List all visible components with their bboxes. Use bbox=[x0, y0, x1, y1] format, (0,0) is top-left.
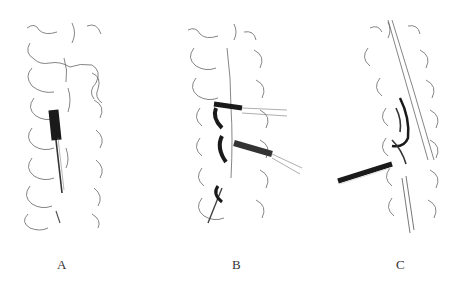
spine-illustration-b bbox=[172, 18, 312, 248]
panel-b-illustration bbox=[172, 18, 312, 248]
clipped-caption bbox=[85, 286, 375, 291]
panel-label-c: C bbox=[396, 257, 405, 273]
panel-a-illustration bbox=[12, 18, 132, 248]
spine-illustration-a bbox=[12, 18, 132, 248]
spine-illustration-c bbox=[330, 18, 460, 248]
panel-c-illustration bbox=[330, 18, 460, 248]
panel-label-a: A bbox=[57, 257, 66, 273]
panel-label-b: B bbox=[232, 257, 241, 273]
